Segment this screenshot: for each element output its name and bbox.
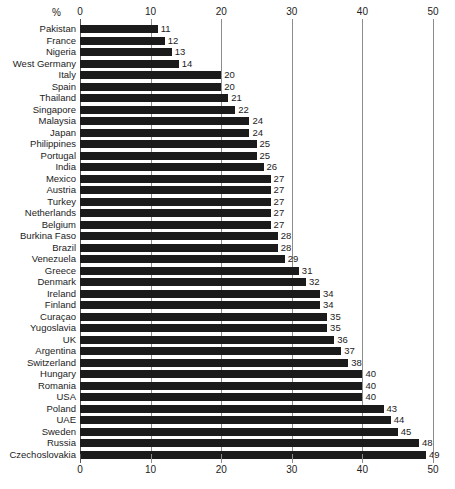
bar (80, 221, 271, 229)
category-label: Brazil (52, 242, 76, 253)
bar (80, 244, 278, 252)
x-axis-tick-label: 50 (427, 464, 438, 476)
bar-value-label: 36 (337, 334, 348, 345)
bar (80, 37, 165, 45)
category-label: Venezuela (32, 253, 76, 264)
bar (80, 48, 172, 56)
horizontal-bar-chart: % 01020304050 Pakistan11France12Nigeria1… (0, 0, 455, 489)
category-label: Romania (38, 380, 76, 391)
bar-value-label: 27 (274, 219, 285, 230)
x-axis-tick-mark (151, 454, 152, 463)
category-label: Czechoslovakia (9, 449, 76, 460)
category-label: Thailand (40, 92, 76, 103)
category-label: Poland (46, 403, 76, 414)
bar (80, 71, 221, 79)
bar (80, 428, 398, 436)
bar-value-label: 48 (422, 437, 433, 448)
bar (80, 152, 257, 160)
bar-value-label: 25 (260, 138, 271, 149)
category-label: Argentina (35, 345, 76, 356)
bar (80, 359, 348, 367)
bar (80, 186, 271, 194)
x-axis-bottom: 01020304050 (0, 464, 455, 482)
bar-value-label: 49 (429, 449, 440, 460)
category-label: France (46, 35, 76, 46)
bar (80, 370, 362, 378)
category-label: Denmark (37, 276, 76, 287)
x-axis-tick-label: 40 (357, 464, 368, 476)
bar-value-label: 31 (302, 265, 313, 276)
bar (80, 336, 334, 344)
bar-value-label: 43 (387, 403, 398, 414)
x-axis-top: 01020304050 (0, 6, 455, 24)
bar (80, 301, 320, 309)
category-label: India (55, 161, 76, 172)
category-label: Nigeria (46, 46, 76, 57)
bar-value-label: 27 (274, 173, 285, 184)
bar-value-label: 45 (401, 426, 412, 437)
category-label: Greece (45, 265, 76, 276)
bar-value-label: 22 (238, 104, 249, 115)
category-label: Pakistan (40, 23, 76, 34)
bar-value-label: 25 (260, 150, 271, 161)
x-axis-tick-label: 10 (145, 464, 156, 476)
plot-area: Pakistan11France12Nigeria13West Germany1… (0, 24, 455, 461)
category-label: Russia (47, 437, 76, 448)
x-axis-tick-label: 50 (427, 6, 438, 18)
category-label: Sweden (42, 426, 76, 437)
bar (80, 324, 327, 332)
bar (80, 451, 426, 459)
category-label: West Germany (13, 58, 76, 69)
category-label: USA (56, 391, 76, 402)
bar-value-label: 24 (252, 127, 263, 138)
bar (80, 94, 228, 102)
bar-value-label: 20 (224, 81, 235, 92)
bar (80, 382, 362, 390)
bar-value-label: 27 (274, 184, 285, 195)
x-axis-tick-label: 0 (77, 464, 83, 476)
bar (80, 60, 179, 68)
x-axis-tick-label: 30 (286, 6, 297, 18)
bar-value-label: 11 (161, 23, 171, 34)
x-axis-tick-label: 20 (216, 464, 227, 476)
bar (80, 106, 235, 114)
bar-value-label: 27 (274, 196, 285, 207)
bar (80, 198, 271, 206)
category-label: Burkina Faso (20, 230, 76, 241)
bar-value-label: 40 (365, 380, 376, 391)
bar (80, 278, 306, 286)
category-label: Singapore (33, 104, 76, 115)
x-axis-tick-label: 20 (216, 6, 227, 18)
bar-value-label: 24 (252, 115, 263, 126)
category-label: Spain (52, 81, 76, 92)
x-axis-tick-mark (221, 454, 222, 463)
bar (80, 129, 249, 137)
bar (80, 393, 362, 401)
bar (80, 347, 341, 355)
category-label: Mexico (46, 173, 76, 184)
bar (80, 255, 285, 263)
bar-value-label: 28 (281, 242, 292, 253)
bar (80, 267, 299, 275)
category-label: Hungary (40, 368, 76, 379)
x-axis-tick-mark (80, 454, 81, 463)
bar-value-label: 32 (309, 276, 320, 287)
bar (80, 290, 320, 298)
bar-value-label: 40 (365, 391, 376, 402)
bar (80, 209, 271, 217)
x-axis-tick-mark (362, 454, 363, 463)
x-axis-tick-label: 40 (357, 6, 368, 18)
category-label: Portugal (41, 150, 76, 161)
bar (80, 25, 158, 33)
bar-value-label: 29 (288, 253, 299, 264)
category-label: Austria (46, 184, 76, 195)
bar (80, 83, 221, 91)
category-label: Switzerland (27, 357, 76, 368)
bar-value-label: 26 (267, 161, 278, 172)
x-axis-tick-label: 10 (145, 6, 156, 18)
bar (80, 313, 327, 321)
bar (80, 405, 384, 413)
category-label: Curaçao (40, 311, 76, 322)
bar-value-label: 13 (175, 46, 186, 57)
x-axis-tick-mark (292, 454, 293, 463)
